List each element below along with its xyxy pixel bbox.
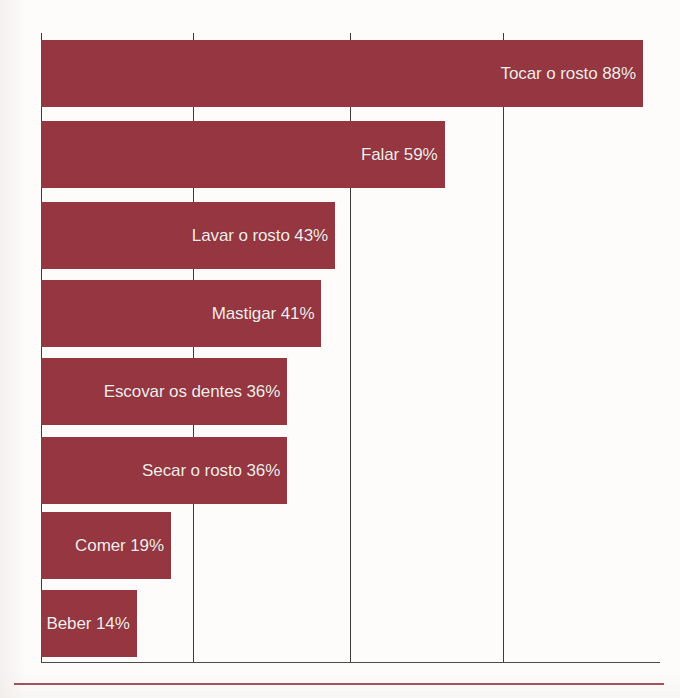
x-axis-line <box>41 662 660 663</box>
bar-data-label: Falar 59% <box>361 146 445 163</box>
gridline-3 <box>503 33 504 663</box>
bar-data-label: Lavar o rosto 43% <box>192 227 335 244</box>
bar[interactable]: Beber 14% <box>41 590 137 657</box>
bar[interactable]: Tocar o rosto 88% <box>41 40 643 107</box>
plot-area: Tocar o rosto 88% Falar 59% Lavar o rost… <box>41 33 643 663</box>
bar-chart: Tocar o rosto 88% Falar 59% Lavar o rost… <box>0 0 680 698</box>
bar-data-label: Tocar o rosto 88% <box>501 65 643 82</box>
bar[interactable]: Escovar os dentes 36% <box>41 358 287 425</box>
bar[interactable]: Mastigar 41% <box>41 280 321 347</box>
bar[interactable]: Secar o rosto 36% <box>41 437 287 504</box>
bar-data-label: Escovar os dentes 36% <box>104 383 288 400</box>
footer-rule <box>14 683 664 685</box>
bar-data-label: Comer 19% <box>75 537 171 554</box>
bar[interactable]: Falar 59% <box>41 121 445 188</box>
bar-data-label: Mastigar 41% <box>212 305 322 322</box>
bar[interactable]: Comer 19% <box>41 512 171 579</box>
bar[interactable]: Lavar o rosto 43% <box>41 202 335 269</box>
bar-data-label: Beber 14% <box>47 615 137 632</box>
bar-data-label: Secar o rosto 36% <box>142 462 287 479</box>
